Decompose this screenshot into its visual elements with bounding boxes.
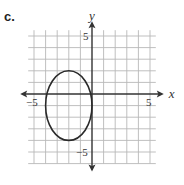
coordinate-plane: xy−555−5 [0, 0, 184, 185]
graph-figure: c. xy−555−5 [0, 0, 184, 185]
y-tick-label: 5 [83, 30, 89, 42]
part-label: c. [4, 9, 15, 24]
y-tick-label: −5 [76, 146, 88, 158]
x-axis-label: x [168, 86, 175, 101]
x-tick-label: −5 [26, 96, 38, 108]
tick-labels: xy−555−5 [26, 8, 175, 158]
y-axis-label: y [87, 8, 95, 23]
x-tick-label: 5 [146, 96, 152, 108]
